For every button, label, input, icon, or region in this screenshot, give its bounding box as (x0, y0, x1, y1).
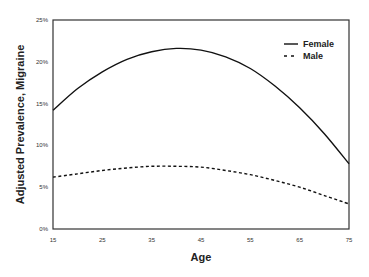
y-tick-label: 10% (36, 142, 49, 148)
legend-label-female: Female (303, 39, 334, 49)
x-tick-label: 25 (99, 237, 106, 243)
y-tick-label: 25% (36, 17, 49, 23)
x-tick-label: 65 (296, 237, 303, 243)
y-tick-label: 5% (39, 184, 48, 190)
line-chart: 0%5%10%15%20%25%15253545556575AgeAdjuste… (0, 0, 369, 277)
x-tick-label: 15 (50, 237, 57, 243)
x-tick-label: 55 (247, 237, 254, 243)
y-tick-label: 20% (36, 59, 49, 65)
x-tick-label: 75 (346, 237, 353, 243)
x-tick-label: 45 (198, 237, 205, 243)
series-line-male (53, 166, 349, 204)
series-line-female (53, 48, 349, 163)
y-tick-label: 15% (36, 101, 49, 107)
y-axis-title: Adjusted Prevalence, Migraine (14, 45, 26, 205)
x-axis-title: Age (191, 251, 212, 263)
legend-label-male: Male (303, 51, 323, 61)
x-tick-label: 35 (148, 237, 155, 243)
y-tick-label: 0% (39, 226, 48, 232)
